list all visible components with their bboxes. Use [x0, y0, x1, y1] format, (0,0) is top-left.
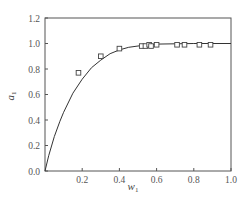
y-axis-label: a1 [4, 91, 18, 101]
square-marker [149, 44, 154, 49]
y-tick-label: 1.2 [28, 14, 40, 24]
square-marker [76, 71, 81, 76]
y-tick-label: 0.6 [28, 90, 40, 100]
x-tick-label: 0.4 [113, 175, 125, 185]
x-tick-label: 0.8 [188, 175, 200, 185]
square-marker [208, 42, 213, 47]
square-marker [182, 42, 187, 47]
square-marker [154, 42, 159, 47]
y-tick-label: 0.0 [28, 167, 40, 177]
x-tick-label: 0.6 [151, 175, 163, 185]
y-tick-label: 0.8 [28, 65, 40, 75]
y-tick-label: 1.0 [28, 39, 40, 49]
x-tick-label: 0.2 [76, 175, 88, 185]
x-axis-label: w1 [128, 180, 139, 194]
y-tick-label: 0.4 [28, 116, 40, 126]
plot-frame [45, 18, 231, 171]
square-marker [197, 42, 202, 47]
x-tick-label: 1.0 [225, 175, 237, 185]
square-marker [175, 42, 180, 47]
square-marker [99, 54, 104, 59]
y-tick-label: 0.2 [28, 141, 40, 151]
chart: 0.00.20.40.60.81.01.2 0.20.40.60.81.0 w1… [0, 0, 247, 201]
data-markers [76, 42, 213, 75]
model-curve [45, 44, 231, 172]
square-marker [117, 46, 122, 51]
